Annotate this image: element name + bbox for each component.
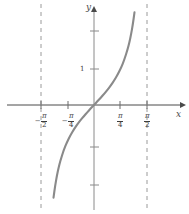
fraction-stack: π 2 (41, 113, 47, 129)
x-axis-arrow-icon (180, 102, 186, 108)
x-tick-label-neg-pi-over-4: − π 4 (57, 113, 79, 129)
fraction-numerator: π (41, 113, 47, 120)
x-tick-label-pi-over-2: π 2 (139, 113, 155, 129)
tangent-function-figure: y x 1 − π 2 − π 4 π 4 π 2 (0, 0, 189, 214)
x-axis-label: x (176, 110, 181, 119)
fraction-stack: π 2 (144, 113, 150, 129)
fraction-stack: π 4 (117, 113, 123, 129)
fraction-denominator: 2 (145, 122, 150, 129)
fraction-numerator: π (68, 113, 74, 120)
x-tick-label-pi-over-4: π 4 (112, 113, 128, 129)
y-axis-arrow-icon (91, 6, 97, 12)
fraction-denominator: 4 (118, 122, 123, 129)
fraction-sign: − (35, 118, 41, 125)
x-tick-label-neg-pi-over-2: − π 2 (30, 113, 52, 129)
fraction-numerator: π (144, 113, 150, 120)
fraction-denominator: 4 (68, 122, 73, 129)
fraction-stack: π 4 (68, 113, 74, 129)
fraction-numerator: π (117, 113, 123, 120)
y-tick-label-1: 1 (80, 66, 84, 73)
y-axis-label: y (86, 3, 91, 12)
fraction-denominator: 2 (41, 122, 46, 129)
plot-canvas (0, 0, 189, 214)
fraction-sign: − (62, 118, 68, 125)
